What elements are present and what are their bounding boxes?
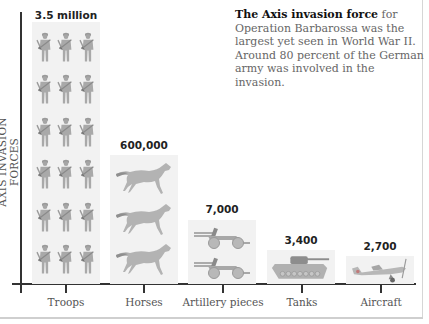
y-axis-foot-tick bbox=[20, 284, 22, 293]
value-label-artillery: 7,000 bbox=[177, 203, 267, 215]
value-label-troops: 3.5 million bbox=[21, 9, 111, 21]
chart-annotation: The Axis invasion force for Operation Ba… bbox=[235, 8, 425, 89]
aircraft-icon bbox=[348, 257, 412, 284]
soldier-icon bbox=[36, 71, 54, 107]
soldier-icon bbox=[57, 199, 75, 235]
tank-icon bbox=[269, 252, 333, 282]
soldier-icon bbox=[79, 241, 97, 277]
horse-icon bbox=[114, 162, 174, 196]
soldier-icon bbox=[36, 199, 54, 235]
value-label-aircraft: 2,700 bbox=[335, 240, 425, 252]
tick-tanks bbox=[301, 284, 303, 293]
tick-aircraft bbox=[380, 284, 382, 293]
category-label-aircraft: Aircraft bbox=[331, 296, 429, 308]
soldier-icon bbox=[36, 241, 54, 277]
artillery-icon bbox=[192, 254, 252, 280]
artillery-icon bbox=[192, 224, 252, 250]
tick-horses bbox=[143, 284, 145, 293]
soldier-icon bbox=[36, 114, 54, 150]
soldier-icon bbox=[79, 29, 97, 65]
tick-troops bbox=[65, 284, 67, 293]
annotation-heading: The Axis invasion force bbox=[235, 8, 378, 21]
bar-horses bbox=[110, 155, 178, 284]
soldier-icon bbox=[57, 156, 75, 192]
soldier-icon bbox=[57, 114, 75, 150]
horse-icon bbox=[114, 243, 174, 277]
tick-artillery bbox=[222, 284, 224, 293]
y-axis-line bbox=[20, 12, 22, 292]
frame-bottom-border bbox=[0, 317, 423, 319]
bar-troops bbox=[32, 22, 100, 284]
soldier-icon bbox=[36, 156, 54, 192]
y-axis-label: AXIS INVASION FORCES bbox=[0, 92, 20, 232]
bar-tanks bbox=[267, 250, 335, 284]
bar-artillery bbox=[188, 220, 256, 284]
horse-icon bbox=[114, 203, 174, 237]
value-label-tanks: 3,400 bbox=[256, 234, 346, 246]
soldier-icon bbox=[57, 71, 75, 107]
soldier-icon bbox=[57, 241, 75, 277]
bar-aircraft bbox=[346, 256, 414, 284]
soldier-icon bbox=[79, 156, 97, 192]
soldier-icon bbox=[79, 114, 97, 150]
soldier-icon bbox=[79, 71, 97, 107]
soldier-icon bbox=[36, 29, 54, 65]
soldier-icon bbox=[79, 199, 97, 235]
soldier-icon bbox=[57, 29, 75, 65]
value-label-horses: 600,000 bbox=[99, 139, 189, 151]
